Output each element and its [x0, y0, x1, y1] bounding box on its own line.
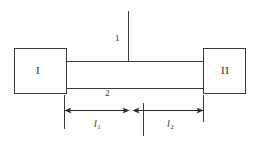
callout-2-label: 2 — [105, 89, 110, 98]
block-left-rect — [15, 49, 67, 94]
dimension-l2-label: l2 — [167, 119, 173, 129]
dimension-l1-subscript: 1 — [97, 123, 101, 131]
block-left-label: I — [36, 65, 40, 76]
technical-diagram: I II 1 2 l1 l2 — [0, 0, 258, 141]
dimension-l2-subscript: 2 — [170, 123, 174, 131]
dimension-l1-label: l1 — [94, 119, 100, 129]
block-right-label: II — [221, 65, 229, 76]
callout-1-label: 1 — [115, 34, 120, 43]
